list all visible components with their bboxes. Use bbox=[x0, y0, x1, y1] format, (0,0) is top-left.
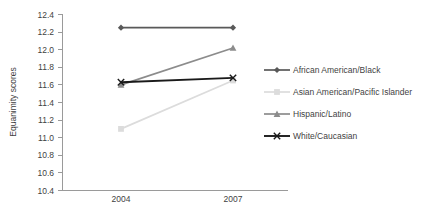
legend-marker-square-icon bbox=[274, 89, 280, 95]
series-group bbox=[118, 78, 236, 132]
legend-item-label: Hispanic/Latino bbox=[293, 109, 351, 119]
legend-item-label: White/Caucasian bbox=[293, 131, 358, 141]
legend-marker-diamond-icon bbox=[274, 67, 280, 73]
legend-item-label: African American/Black bbox=[293, 65, 381, 75]
x-tick-label: 2004 bbox=[112, 194, 131, 204]
legend-item[interactable]: White/Caucasian bbox=[264, 131, 358, 141]
series-group bbox=[118, 25, 236, 31]
y-tick-label: 12.4 bbox=[37, 10, 54, 20]
data-point-marker bbox=[230, 25, 236, 31]
y-tick-label: 11.8 bbox=[38, 62, 54, 72]
data-point-marker bbox=[118, 25, 124, 31]
legend-item-label: Asian American/Pacific Islander bbox=[293, 87, 412, 97]
y-tick-label: 11.4 bbox=[38, 98, 54, 108]
chart-figure: 12.4 12.2 12.0 11.8 11.6 11.4 11.2 11.0 … bbox=[0, 0, 437, 215]
series-layer bbox=[118, 25, 237, 132]
legend-item[interactable]: Asian American/Pacific Islander bbox=[264, 87, 412, 97]
y-tick-label: 12.2 bbox=[37, 27, 54, 37]
x-tick-label: 2007 bbox=[224, 194, 243, 204]
y-tick-label: 10.6 bbox=[37, 168, 54, 178]
y-tick-label: 11.0 bbox=[38, 133, 54, 143]
y-axis-ticks: 12.4 12.2 12.0 11.8 11.6 11.4 11.2 11.0 … bbox=[37, 10, 62, 196]
y-tick-label: 10.4 bbox=[37, 186, 54, 196]
data-point-marker bbox=[118, 126, 124, 132]
series-line bbox=[121, 81, 233, 129]
y-tick-label: 11.6 bbox=[38, 80, 54, 90]
y-tick-label: 10.8 bbox=[37, 150, 54, 160]
data-point-marker bbox=[230, 45, 237, 51]
x-axis-ticks: 2004 2007 bbox=[112, 194, 243, 204]
y-tick-label: 12.0 bbox=[37, 45, 54, 55]
chart-axes bbox=[63, 14, 289, 191]
y-axis-title: Equanimity scores bbox=[8, 67, 18, 136]
y-tick-label: 11.2 bbox=[38, 115, 54, 125]
line-chart: 12.4 12.2 12.0 11.8 11.6 11.4 11.2 11.0 … bbox=[0, 0, 437, 215]
chart-legend: African American/BlackAsian American/Pac… bbox=[264, 65, 412, 141]
legend-item[interactable]: African American/Black bbox=[264, 65, 381, 75]
legend-item[interactable]: Hispanic/Latino bbox=[264, 109, 351, 119]
